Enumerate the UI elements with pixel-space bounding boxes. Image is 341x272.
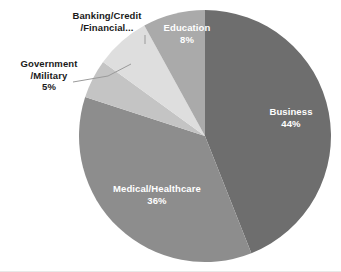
slice-label-business: Business 44% bbox=[255, 106, 327, 129]
slice-label-banking-credit-financial-line2: /Financial... bbox=[44, 22, 170, 34]
slice-label-medical-healthcare-percent: 36% bbox=[101, 195, 213, 207]
slice-label-government-military-percent: 5% bbox=[2, 81, 96, 93]
slice-label-medical-healthcare: Medical/Healthcare 36% bbox=[101, 183, 213, 206]
slice-label-education-percent: 8% bbox=[150, 34, 224, 46]
slice-label-medical-healthcare-name: Medical/Healthcare bbox=[101, 183, 213, 195]
slice-label-business-name: Business bbox=[255, 106, 327, 118]
slice-label-business-percent: 44% bbox=[255, 118, 327, 130]
slice-label-government-military: Government /Military 5% bbox=[2, 58, 96, 93]
slice-label-banking-credit-financial-line1: Banking/Credit bbox=[44, 10, 170, 22]
pie-chart: Business 44% Medical/Healthcare 36% Educ… bbox=[0, 0, 341, 272]
slice-label-government-military-line1: Government bbox=[2, 58, 96, 70]
slice-label-government-military-line2: /Military bbox=[2, 70, 96, 82]
slice-label-banking-credit-financial: Banking/Credit /Financial... bbox=[44, 10, 170, 33]
